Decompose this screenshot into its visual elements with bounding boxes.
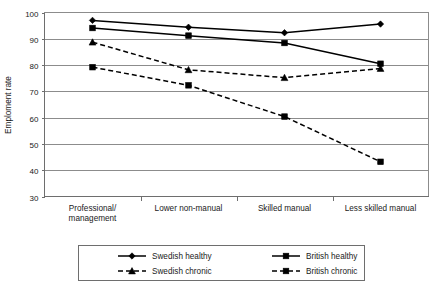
x-category-label: Professional/ <box>69 204 117 213</box>
legend-label: British healthy <box>306 252 358 261</box>
data-point <box>90 64 96 70</box>
data-point <box>186 33 192 39</box>
y-tick-label: 70 <box>30 88 39 97</box>
legend-label: Swedish chronic <box>152 267 212 276</box>
x-category-label: management <box>69 214 118 223</box>
y-tick-label: 100 <box>25 10 39 19</box>
x-category-label: Lower non-manual <box>155 204 223 213</box>
legend-label: British chronic <box>306 267 357 276</box>
x-category-label: Less skilled manual <box>345 204 417 213</box>
x-category-label: Skilled manual <box>258 204 311 213</box>
data-point <box>90 25 96 31</box>
data-point <box>378 159 384 165</box>
legend-marker <box>283 268 289 274</box>
data-point <box>282 114 288 120</box>
y-axis-title: Emploment rate <box>4 76 13 134</box>
legend-label: Swedish healthy <box>152 252 213 261</box>
y-tick-label: 50 <box>30 141 39 150</box>
data-point <box>282 40 288 46</box>
y-tick-label: 40 <box>30 167 39 176</box>
data-point <box>186 83 192 89</box>
y-tick-label: 30 <box>30 194 39 203</box>
chart-canvas: Emploment rate 30405060708090100 Profess… <box>0 0 443 290</box>
y-tick-label: 90 <box>30 36 39 45</box>
y-tick-label: 60 <box>30 115 39 124</box>
employment-rate-chart: Emploment rate 30405060708090100 Profess… <box>0 0 443 290</box>
legend-marker <box>283 253 289 259</box>
y-tick-label: 80 <box>30 62 39 71</box>
